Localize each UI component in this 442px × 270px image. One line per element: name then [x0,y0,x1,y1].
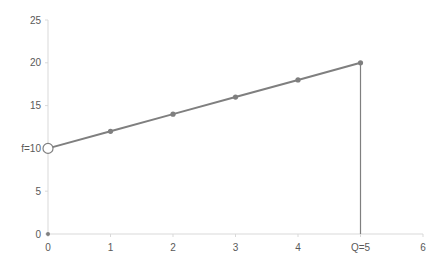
x-tick-label: 3 [233,242,239,253]
y-axis-tick-labels: 05f=10152025 [21,15,41,240]
x-tick-label: 1 [108,242,114,253]
open-circle-marker [43,143,53,153]
data-point-marker [233,94,238,99]
data-point-marker [295,77,300,82]
y-tick-label: 25 [30,15,42,26]
cost-line [48,63,361,149]
x-tick-label: 4 [295,242,301,253]
y-tick-label: 0 [35,229,41,240]
chart: 05f=10152025 01234Q=56 [0,0,442,270]
x-tick-label: 0 [45,242,51,253]
x-tick-label: 6 [420,242,426,253]
data-point-marker [170,112,175,117]
y-tick-label: f=10 [21,143,41,154]
origin-point-marker [46,232,50,236]
y-tick-label: 5 [35,186,41,197]
x-axis-tick-labels: 01234Q=56 [45,242,426,253]
plot-area [43,60,363,236]
y-tick-label: 15 [30,100,42,111]
data-point-marker [108,129,113,134]
y-tick-label: 20 [30,57,42,68]
x-tick-label: 2 [170,242,176,253]
axes [45,20,423,237]
x-tick-label: Q=5 [351,242,371,253]
